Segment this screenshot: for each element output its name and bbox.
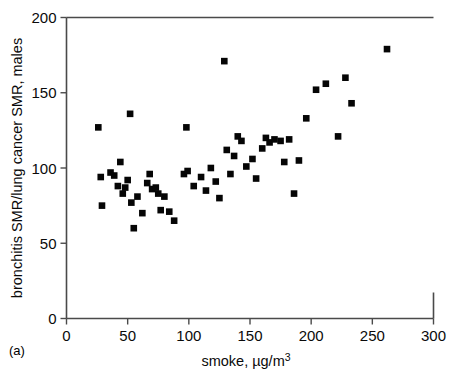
data-point — [281, 159, 288, 166]
data-point — [249, 156, 256, 163]
x-tick-label-0: 0 — [62, 327, 70, 344]
data-point — [157, 207, 164, 214]
x-tick-label-300: 300 — [421, 327, 446, 344]
data-point — [97, 174, 104, 181]
data-point — [342, 74, 349, 81]
y-tick-label-50: 50 — [40, 235, 57, 252]
data-point-group — [95, 46, 390, 232]
data-point — [128, 199, 135, 206]
x-tick-label-50: 50 — [119, 327, 136, 344]
data-point — [203, 187, 210, 194]
data-point — [99, 202, 106, 209]
x-tick-label-250: 250 — [360, 327, 385, 344]
x-axis-title: smoke, µg/m3 — [201, 351, 290, 369]
data-point — [286, 136, 293, 143]
data-point — [271, 136, 278, 143]
data-point — [384, 46, 391, 53]
x-tick-label-150: 150 — [237, 327, 262, 344]
data-point — [115, 183, 122, 190]
data-point — [335, 133, 342, 140]
data-point — [277, 138, 284, 145]
data-point — [190, 183, 197, 190]
plot-canvas: 050100150200050100150200250300smoke, µg/… — [0, 0, 471, 369]
data-point — [119, 190, 126, 197]
data-point — [291, 190, 298, 197]
y-tick-label-100: 100 — [31, 160, 56, 177]
data-point — [323, 80, 330, 87]
data-point — [144, 180, 151, 187]
data-point — [153, 184, 160, 191]
data-point — [161, 193, 168, 200]
data-point — [184, 168, 191, 175]
data-point — [198, 174, 205, 181]
data-point — [243, 163, 250, 170]
data-point — [221, 58, 228, 65]
data-point — [134, 193, 141, 200]
panel-label: (a) — [9, 343, 25, 358]
x-tick-label-100: 100 — [176, 327, 201, 344]
data-point — [208, 165, 215, 172]
data-point — [127, 111, 134, 118]
data-point — [231, 153, 238, 160]
data-point — [124, 177, 131, 184]
data-point — [348, 100, 355, 107]
data-point — [130, 225, 137, 232]
y-axis-title: bronchitis SMR/lung cancer SMR, males — [9, 38, 25, 298]
x-tick-label-200: 200 — [299, 327, 324, 344]
data-point — [216, 195, 223, 202]
y-tick-label-200: 200 — [31, 9, 56, 26]
data-point — [296, 157, 303, 164]
scatter-plot-figure: 050100150200050100150200250300smoke, µg/… — [0, 0, 471, 369]
data-point — [227, 171, 234, 178]
data-point — [139, 210, 146, 217]
data-point — [303, 115, 310, 122]
data-point — [259, 145, 266, 152]
data-point — [238, 138, 245, 145]
data-point — [313, 86, 320, 93]
data-point — [253, 175, 260, 182]
data-point — [183, 124, 190, 131]
data-point — [223, 147, 230, 154]
data-point — [95, 124, 102, 131]
data-point — [171, 217, 178, 224]
data-point — [155, 190, 162, 197]
data-point — [111, 172, 118, 179]
data-point — [146, 171, 153, 178]
y-tick-label-150: 150 — [31, 84, 56, 101]
data-point — [122, 184, 129, 191]
data-point — [166, 208, 173, 215]
data-point — [212, 178, 219, 185]
y-tick-label-0: 0 — [48, 310, 56, 327]
data-point — [117, 159, 124, 166]
